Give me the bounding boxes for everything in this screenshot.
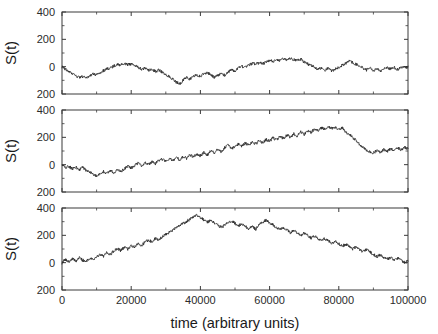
y-tick-label: 200 (37, 88, 55, 100)
y-axis-label-1: S(t) (2, 139, 19, 163)
y-tick-label: 200 (37, 229, 55, 241)
y-tick-label: 200 (37, 186, 55, 198)
x-tick-label: 40000 (185, 294, 216, 306)
x-tick-label: 80000 (324, 294, 355, 306)
y-tick-label: 400 (37, 202, 55, 214)
figure-container: 2000200400S(t)2000200400S(t)200020040002… (0, 0, 438, 334)
y-axis-label-0: S(t) (2, 41, 19, 65)
plot-frame-0 (62, 12, 408, 94)
series-line-0 (62, 58, 408, 85)
plot-frame-1 (62, 110, 408, 192)
panels-group: 2000200400S(t)2000200400S(t)200020040002… (2, 6, 426, 306)
y-tick-label: 200 (37, 131, 55, 143)
y-axis-label-2: S(t) (2, 237, 19, 261)
y-tick-label: 400 (37, 104, 55, 116)
series-line-2 (62, 214, 408, 264)
y-tick-label: 200 (37, 33, 55, 45)
plot-frame-2 (62, 208, 408, 290)
x-tick-label: 20000 (116, 294, 147, 306)
y-tick-label: 0 (49, 61, 55, 73)
time-series-figure: 2000200400S(t)2000200400S(t)200020040002… (0, 0, 438, 334)
x-tick-label: 100000 (390, 294, 427, 306)
y-tick-label: 400 (37, 6, 55, 18)
y-tick-label: 200 (37, 284, 55, 296)
x-tick-label: 0 (59, 294, 65, 306)
series-line-1 (62, 126, 408, 177)
y-tick-label: 0 (49, 159, 55, 171)
y-tick-label: 0 (49, 257, 55, 269)
x-tick-label: 60000 (254, 294, 285, 306)
x-axis-label: time (arbitrary units) (171, 315, 300, 331)
